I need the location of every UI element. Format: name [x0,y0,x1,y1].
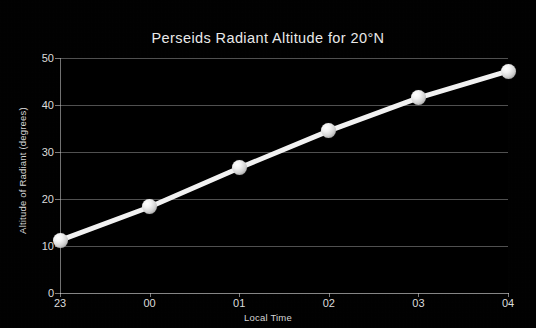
y-tick-mark-30 [55,152,60,153]
plot-area [60,58,508,293]
x-tick-mark-01 [239,293,240,297]
x-tick-mark-23 [60,293,61,297]
gridline-y-20 [60,199,508,200]
x-axis-line [60,293,509,294]
x-tick-label-04: 04 [488,298,528,309]
chart-title: Perseids Radiant Altitude for 20°N [0,30,536,46]
x-tick-mark-00 [150,293,151,297]
x-tick-label-00: 00 [130,298,170,309]
y-tick-mark-10 [55,246,60,247]
gridline-y-40 [60,105,508,106]
data-point-04 [501,64,516,79]
gridline-y-50 [60,58,508,59]
x-tick-label-01: 01 [219,298,259,309]
y-tick-label-50: 50 [20,53,54,64]
y-axis-line [60,58,61,294]
gridline-y-30 [60,152,508,153]
x-tick-mark-03 [418,293,419,297]
x-tick-label-03: 03 [398,298,438,309]
y-tick-mark-20 [55,199,60,200]
y-axis-title: Altitude of Radiant (degrees) [17,101,28,241]
y-tick-mark-40 [55,105,60,106]
y-tick-mark-0 [55,293,60,294]
x-axis-title: Local Time [0,312,536,323]
x-tick-label-23: 23 [40,298,80,309]
x-tick-mark-04 [508,293,509,297]
y-tick-label-10: 10 [20,241,54,252]
y-tick-label-0: 0 [20,288,54,299]
x-tick-label-02: 02 [309,298,349,309]
y-tick-mark-50 [55,58,60,59]
gridline-y-10 [60,246,508,247]
chart-screenshot: Perseids Radiant Altitude for 20°N 01020… [0,0,536,328]
x-tick-mark-02 [329,293,330,297]
